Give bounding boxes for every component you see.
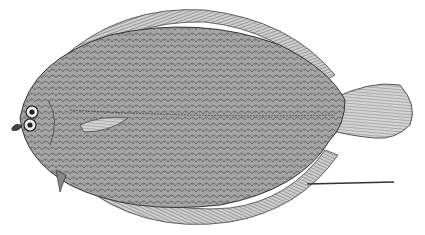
scale-bar [307, 182, 394, 184]
illustration-canvas [0, 0, 425, 235]
flatfish-illustration [0, 0, 425, 235]
mouth [12, 124, 22, 130]
